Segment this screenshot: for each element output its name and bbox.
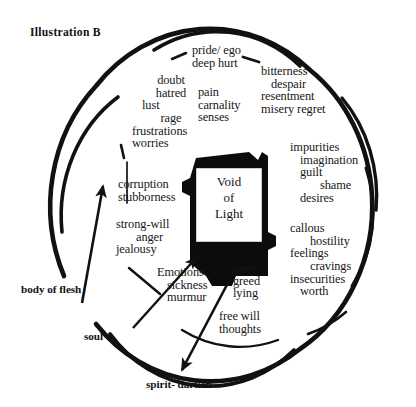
- word-free-will: free will: [219, 310, 261, 323]
- group-bitterness: bitterness despair resentment misery reg…: [261, 65, 357, 116]
- word-pride-ego: pride/ ego: [192, 44, 241, 57]
- word-senses: senses: [198, 111, 240, 124]
- group-envy: envy greed lying: [233, 262, 260, 300]
- label-spirit-darken: spirit- darken: [146, 378, 212, 390]
- word-envy: envy: [233, 262, 260, 275]
- word-desires: desires: [290, 192, 390, 205]
- group-pride: pride/ ego deep hurt: [192, 44, 241, 69]
- word-lying: lying: [233, 287, 260, 300]
- word-murmur: murmur: [157, 291, 223, 304]
- label-body-of-flesh: body of flesh: [21, 283, 81, 295]
- word-impurities: impurities: [290, 141, 390, 154]
- word-emotions: Emotions: [157, 266, 223, 279]
- word-bitterness: bitterness: [261, 65, 357, 78]
- word-worth: worth: [290, 285, 390, 298]
- illustration-page: Illustration B Void of Light pride/ ego …: [0, 0, 416, 407]
- center-line-3: Light: [195, 206, 263, 222]
- word-worries: worries: [132, 137, 210, 150]
- word-cravings: cravings: [290, 260, 390, 273]
- word-jealousy: jealousy: [116, 243, 198, 256]
- group-free-will: free will thoughts: [219, 310, 261, 335]
- word-pain: pain: [198, 86, 240, 99]
- group-strong-will: strong-will anger jealousy: [116, 218, 198, 256]
- center-line-2: of: [195, 190, 263, 206]
- word-deep-hurt: deep hurt: [192, 57, 241, 70]
- word-misery-regret: misery regret: [261, 103, 357, 116]
- word-strong-will: strong-will: [116, 218, 198, 231]
- group-corruption: corruption stubborness: [118, 178, 175, 203]
- center-line-1: Void: [195, 174, 263, 190]
- body-of-flesh-arrow: [82, 186, 103, 303]
- word-callous: callous: [290, 222, 390, 235]
- word-shame: shame: [290, 179, 390, 192]
- page-title: Illustration B: [30, 26, 101, 39]
- word-corruption: corruption: [118, 178, 175, 191]
- group-emotions: Emotions sickness murmur: [157, 266, 223, 304]
- group-impurities: impurities imagination guilt shame desir…: [290, 141, 390, 204]
- word-thoughts: thoughts: [219, 323, 261, 336]
- word-stubborness: stubborness: [118, 191, 175, 204]
- center-box-text: Void of Light: [195, 174, 263, 222]
- label-soul: soul: [84, 330, 103, 342]
- cross-tick-marks: [129, 268, 160, 294]
- group-callous: callous hostility feelings cravings inse…: [290, 222, 390, 298]
- group-pain: pain carnality senses: [198, 86, 240, 124]
